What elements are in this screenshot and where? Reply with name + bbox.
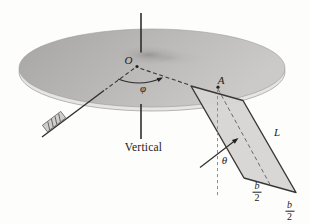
point-a-dot xyxy=(216,86,219,89)
disk xyxy=(19,29,285,107)
length-label: L xyxy=(274,126,280,137)
half-width-right-denominator: 2 xyxy=(285,211,294,223)
plate xyxy=(191,86,296,193)
point-a-label: A xyxy=(218,75,225,86)
vertical-label: Vertical xyxy=(125,142,162,154)
half-width-left-denominator: 2 xyxy=(253,192,262,204)
origin-label: O xyxy=(125,55,133,66)
phi-label: φ xyxy=(140,82,146,93)
half-width-fraction-left: b 2 xyxy=(253,181,262,204)
origin-point xyxy=(135,65,138,68)
figure-canvas xyxy=(0,0,309,224)
theta-label: θ xyxy=(222,154,227,165)
half-width-left-numerator: b xyxy=(254,181,261,192)
half-width-right-numerator: b xyxy=(286,200,293,211)
half-width-fraction-right: b 2 xyxy=(285,200,294,223)
disk-dimple-streak xyxy=(134,50,202,66)
physics-figure: O φ A θ L Vertical b 2 b 2 xyxy=(0,0,309,224)
